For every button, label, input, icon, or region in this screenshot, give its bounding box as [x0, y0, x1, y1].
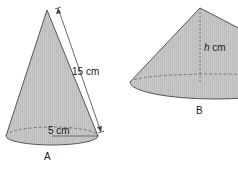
cone-a-label: A — [44, 151, 51, 162]
cone-a-slant-label: 15 cm — [72, 66, 99, 77]
cone-a-radius-label: 5 cm — [48, 125, 70, 136]
cone-a: 15 cm 5 cm A — [6, 7, 104, 162]
cone-diagram: 15 cm 5 cm A h cm B — [0, 0, 238, 169]
cone-b: h cm B — [130, 8, 238, 116]
cone-b-height-label: h cm — [204, 42, 226, 53]
cone-b-label: B — [196, 105, 203, 116]
